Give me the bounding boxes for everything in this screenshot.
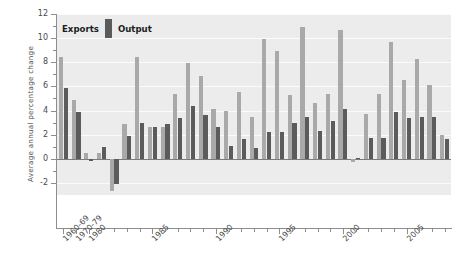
bar-output-2004	[394, 112, 398, 159]
bar-exports-1994	[262, 39, 266, 158]
bar-output-1983	[127, 136, 131, 159]
bar-output-1982	[114, 159, 118, 184]
bar-output-2003	[381, 138, 385, 159]
y-tick-label: 2	[22, 130, 48, 139]
bar-output-1991	[229, 146, 233, 159]
x-tick-label: 1990	[214, 223, 235, 244]
bar-exports-2003	[377, 94, 381, 159]
bar-exports-1983	[122, 124, 126, 159]
bar-output-2007	[432, 117, 436, 159]
y-tick-label: 8	[22, 57, 48, 66]
y-tick-mark	[51, 86, 56, 87]
bar-exports-1990	[211, 109, 215, 158]
x-tick-mark-minor	[432, 229, 433, 232]
legend-label-exports: Exports	[62, 24, 99, 34]
y-tick-mark-minor	[53, 74, 56, 75]
bar-output-2008	[445, 139, 449, 158]
x-tick-mark-minor	[140, 229, 141, 232]
y-tick-label: 6	[22, 81, 48, 90]
x-tick-mark-minor	[254, 229, 255, 232]
y-tick-mark	[51, 111, 56, 112]
bar-output-1980	[89, 159, 93, 161]
bar-exports-1993	[250, 117, 254, 159]
bar-exports-2004	[389, 42, 393, 159]
y-tick-mark	[51, 183, 56, 184]
bar-exports-1991	[224, 111, 228, 159]
bars-layer	[57, 14, 451, 195]
y-tick-label: 10	[22, 33, 48, 42]
y-tick-label: 12	[22, 9, 48, 18]
bar-exports-1998	[313, 103, 317, 159]
bar-output-1998	[318, 131, 322, 159]
x-tick-mark-minor	[178, 229, 179, 232]
bar-exports-1980	[84, 153, 88, 159]
bar-exports-1984	[135, 57, 139, 158]
y-axis-spine	[56, 14, 57, 229]
bar-exports-1970-79	[72, 100, 76, 159]
bar-exports-2008	[440, 135, 444, 159]
bar-output-1984	[140, 123, 144, 159]
bar-exports-1999	[326, 94, 330, 159]
x-tick-mark-minor	[356, 229, 357, 232]
x-tick-label: 2005	[405, 223, 426, 244]
x-tick-mark-minor	[190, 229, 191, 232]
bar-exports-1995	[275, 51, 279, 158]
bar-exports-1989	[199, 76, 203, 159]
chart-legend: Exports Output	[62, 19, 152, 38]
bar-exports-2007	[427, 85, 431, 159]
bar-exports-1985	[148, 127, 152, 158]
bar-output-1994	[267, 132, 271, 159]
y-tick-mark-minor	[53, 50, 56, 51]
x-tick-mark-minor	[305, 229, 306, 232]
x-tick-mark-minor	[330, 229, 331, 232]
y-tick-mark-minor	[53, 123, 56, 124]
bar-output-1987	[178, 118, 182, 159]
x-tick-mark-minor	[241, 229, 242, 232]
bar-exports-2006	[415, 59, 419, 159]
y-tick-label: 0	[22, 154, 48, 163]
bar-output-1993	[254, 148, 258, 159]
legend-swatch-output	[105, 19, 112, 38]
bar-output-2002	[369, 138, 373, 159]
x-tick-mark-minor	[445, 229, 446, 232]
x-tick-mark-minor	[368, 229, 369, 232]
y-tick-mark	[51, 38, 56, 39]
bar-output-1995	[280, 132, 284, 159]
x-tick-label: 1995	[277, 223, 298, 244]
x-tick-mark-minor	[394, 229, 395, 232]
bar-exports-2005	[402, 80, 406, 158]
x-tick-mark-minor	[127, 229, 128, 232]
x-tick-mark-minor	[318, 229, 319, 232]
y-tick-mark-minor	[53, 98, 56, 99]
bar-output-1988	[191, 106, 195, 159]
x-tick-label: 1985	[150, 223, 171, 244]
bar-output-1981	[102, 147, 106, 159]
bar-output-2005	[407, 118, 411, 159]
bar-output-1990	[216, 127, 220, 158]
x-tick-mark-minor	[267, 229, 268, 232]
bar-output-1970-79	[76, 112, 80, 159]
x-tick-mark-minor	[381, 229, 382, 232]
x-tick-mark-minor	[165, 229, 166, 232]
chart-container: Average annual percentage change Exports…	[0, 0, 467, 278]
bar-output-1986	[165, 124, 169, 159]
bar-output-2000	[343, 109, 347, 158]
bar-exports-2002	[364, 114, 368, 159]
bar-output-1992	[242, 139, 246, 158]
plot-area	[57, 14, 451, 195]
y-tick-mark	[51, 135, 56, 136]
y-tick-mark	[51, 14, 56, 15]
bar-output-1999	[331, 121, 335, 158]
y-tick-label: 4	[22, 106, 48, 115]
bar-exports-1997	[300, 27, 304, 159]
bar-output-1960-69	[64, 88, 68, 159]
bar-output-2006	[420, 117, 424, 159]
x-tick-mark-minor	[229, 229, 230, 232]
y-tick-mark-minor	[53, 26, 56, 27]
y-tick-mark	[51, 62, 56, 63]
x-tick-label: 2000	[341, 223, 362, 244]
bar-output-1989	[203, 115, 207, 158]
x-tick-mark-minor	[419, 229, 420, 232]
bar-output-1985	[153, 127, 157, 158]
bar-exports-1996	[288, 95, 292, 159]
